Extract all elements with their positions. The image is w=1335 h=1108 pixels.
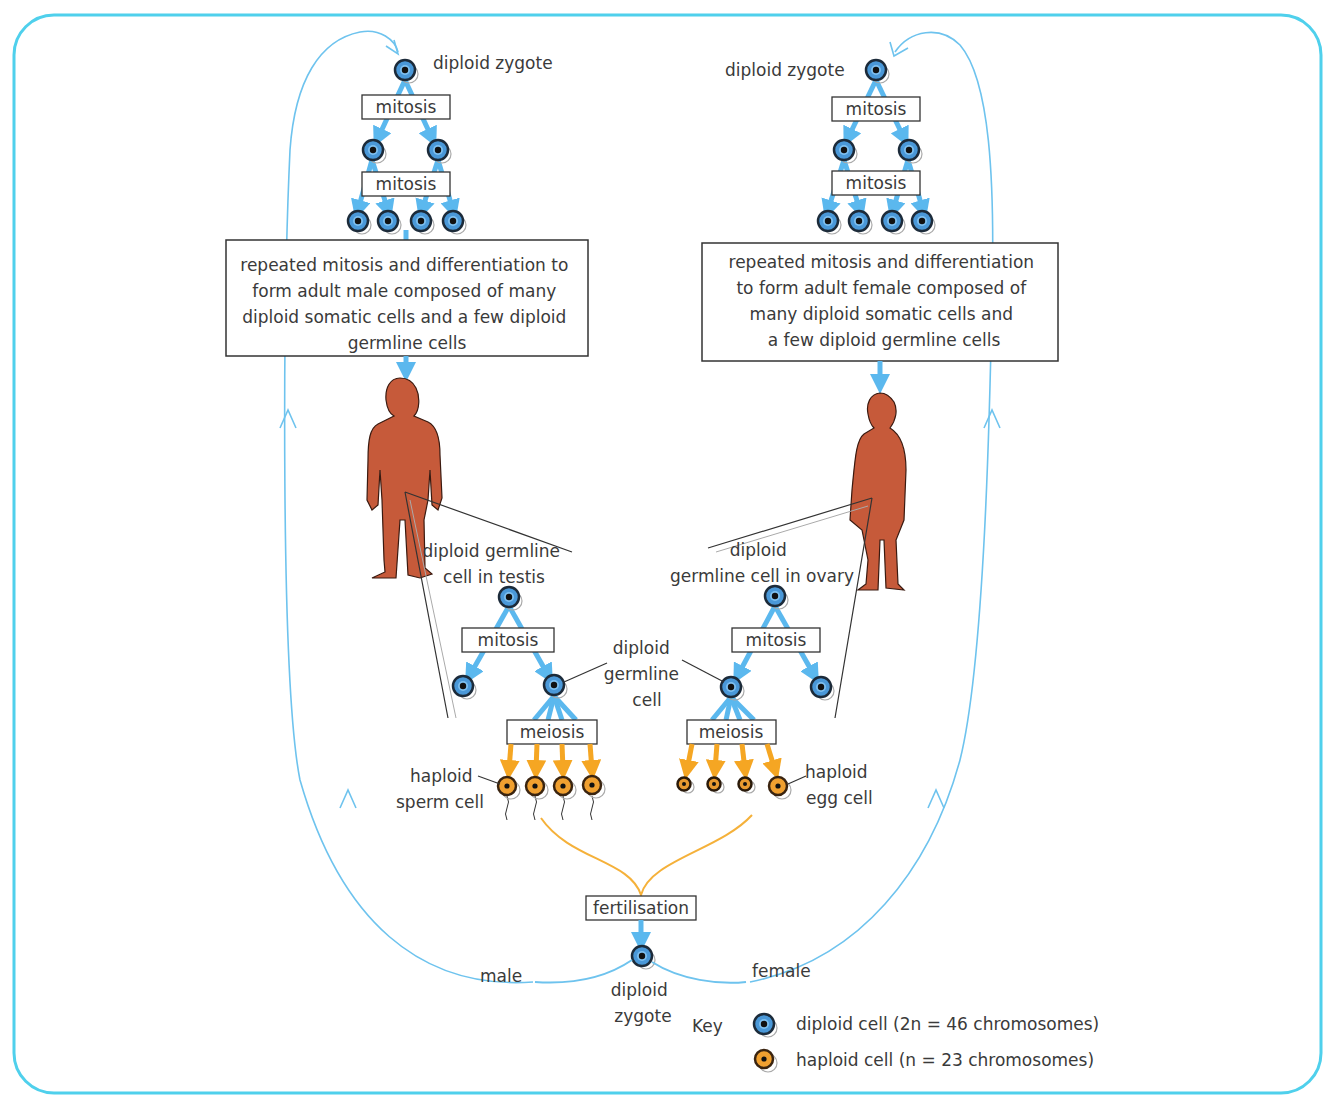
diploid-cell-icon xyxy=(754,1014,777,1037)
center-zygote-cell xyxy=(632,946,655,969)
male-mitosis-label-2: mitosis xyxy=(376,174,437,194)
male-side-label: male xyxy=(480,966,522,986)
male-germline-mitosis-label: mitosis xyxy=(478,630,539,650)
female-zygote-tree xyxy=(818,60,935,234)
diploid-cell-icon xyxy=(443,211,466,234)
diploid-cell-icon xyxy=(411,211,434,234)
diploid-cell-icon xyxy=(348,211,371,234)
female-germline-tree xyxy=(712,586,834,720)
female-meiosis-label: meiosis xyxy=(699,722,764,742)
male-haploid-label: haploid sperm cell xyxy=(396,766,484,812)
male-zygote-label: diploid zygote xyxy=(433,53,553,73)
sperm-cells xyxy=(498,744,605,820)
diagram-canvas: diploid zygote mitosis mitosis repeated … xyxy=(0,0,1335,1108)
fertilisation-label: fertilisation xyxy=(593,898,689,918)
male-germline-tree xyxy=(453,587,576,720)
female-germline-mitosis-label: mitosis xyxy=(746,630,807,650)
diploid-cell-icon xyxy=(395,60,418,83)
legend-haploid-label: haploid cell (n = 23 chromosomes) xyxy=(796,1050,1094,1070)
female-zygote-label: diploid zygote xyxy=(725,60,845,80)
female-mitosis-label-1: mitosis xyxy=(846,99,907,119)
female-side-label: female xyxy=(752,961,811,981)
female-germline-label: diploid germline cell in ovary xyxy=(670,540,854,586)
adult-female-figure xyxy=(850,393,906,590)
legend-diploid-label: diploid cell (2n = 46 chromosomes) xyxy=(796,1014,1099,1034)
fertilisation-lines xyxy=(541,815,752,895)
male-meiosis-label: meiosis xyxy=(520,722,585,742)
diploid-cell-icon xyxy=(378,211,401,234)
legend-title: Key xyxy=(692,1016,723,1036)
egg-cells xyxy=(678,744,792,799)
male-zygote-tree xyxy=(348,60,466,234)
female-haploid-label: haploid egg cell xyxy=(805,762,873,808)
diploid-cell-icon xyxy=(363,140,386,163)
female-mitosis-label-2: mitosis xyxy=(846,173,907,193)
outer-frame xyxy=(14,15,1321,1093)
center-germline-label: diploid germline cell xyxy=(604,638,685,710)
center-zygote-label: diploid zygote xyxy=(611,980,673,1026)
male-germline-label: diploid germline cell in testis xyxy=(423,541,566,587)
legend: Key diploid cell (2n = 46 chromosomes) h… xyxy=(692,1014,1099,1072)
haploid-cell-icon xyxy=(755,1050,777,1072)
diploid-cell-icon xyxy=(428,140,451,163)
male-mitosis-label-1: mitosis xyxy=(376,97,437,117)
